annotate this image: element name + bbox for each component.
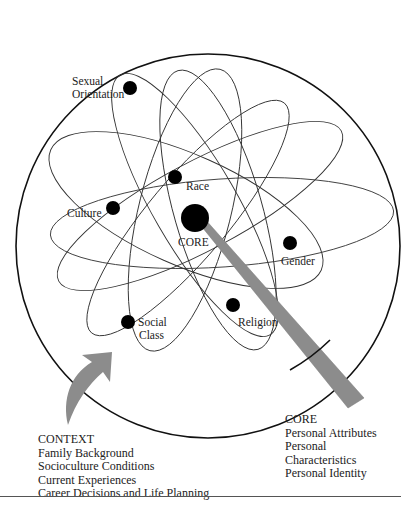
culture-label: Culture [67,207,102,220]
core-dot [181,204,209,232]
race-dot [168,170,182,184]
context-item: Family Background [38,447,209,461]
core-label: CORE [178,236,209,249]
context-legend: CONTEXT Family Background Socioculture C… [38,433,209,501]
context-item: Current Experiences [38,474,209,488]
gender-label: Gender [281,255,315,268]
core-item: Characteristics [285,454,377,468]
core-item: Personal [285,440,377,454]
core-title: CORE [285,413,377,427]
core-item: Personal Attributes [285,427,377,441]
core-legend: CORE Personal Attributes Personal Charac… [285,413,377,481]
context-item: Socioculture Conditions [38,460,209,474]
culture-dot [106,201,120,215]
sexual-orientation-label: Sexual Orientation [72,75,124,101]
core-item: Personal Identity [285,467,377,481]
context-item: Career Decisions and Life Planning [38,487,209,501]
social-class-dot [121,315,135,329]
core-pointer-arrow [198,218,364,408]
context-arrow [66,352,112,425]
race-label: Race [186,180,209,193]
social-class-label: Social Class [138,316,167,342]
orbit-horizontal [47,167,396,279]
religion-dot [226,298,240,312]
religion-label: Religion [238,316,278,329]
context-title: CONTEXT [38,433,209,447]
gender-dot [283,236,297,250]
bottom-rule [0,496,401,497]
sexual-orientation-dot [123,81,137,95]
